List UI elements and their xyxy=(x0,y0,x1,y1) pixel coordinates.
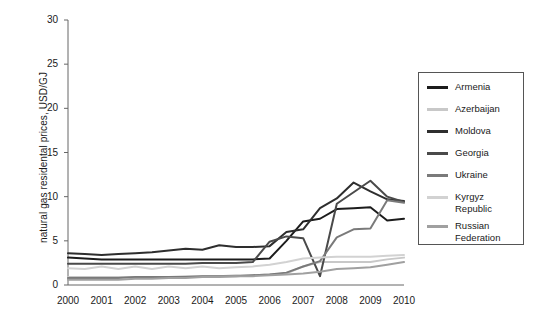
legend-item[interactable]: Russian Federation xyxy=(427,220,500,243)
chart-container: natural gas residental prices, USD/GJ 05… xyxy=(0,0,540,328)
legend-item[interactable]: Azerbaijan xyxy=(427,103,500,115)
legend-color-swatch xyxy=(427,108,448,111)
legend-item[interactable]: Kyrgyz Republic xyxy=(427,191,492,214)
legend-label: Armenia xyxy=(455,81,490,93)
legend-label: Ukraine xyxy=(455,169,488,181)
legend-color-swatch xyxy=(427,130,448,133)
axes xyxy=(64,20,404,285)
legend-item[interactable]: Moldova xyxy=(427,125,491,137)
x-tick-label: 2010 xyxy=(384,295,424,306)
legend-label: Kyrgyz Republic xyxy=(455,191,492,214)
legend-label: Georgia xyxy=(455,147,489,159)
legend-color-swatch xyxy=(427,225,448,228)
y-tick-label: 5 xyxy=(36,235,58,246)
y-tick-label: 30 xyxy=(36,14,58,25)
legend-item[interactable]: Georgia xyxy=(427,147,489,159)
legend-color-swatch xyxy=(427,152,448,155)
legend-item[interactable]: Ukraine xyxy=(427,169,488,181)
legend: ArmeniaAzerbaijanMoldovaGeorgiaUkraineKy… xyxy=(418,72,524,245)
legend-color-swatch xyxy=(427,174,448,177)
legend-color-swatch xyxy=(427,196,448,199)
y-axis-label: natural gas residental prices, USD/GJ xyxy=(38,53,49,263)
series-line xyxy=(68,207,404,259)
legend-color-swatch xyxy=(427,86,448,89)
y-tick-label: 20 xyxy=(36,102,58,113)
series-line xyxy=(68,200,404,278)
y-tick-label: 10 xyxy=(36,191,58,202)
data-series-group xyxy=(68,181,404,280)
y-tick-label: 0 xyxy=(36,279,58,290)
legend-label: Russian Federation xyxy=(455,220,500,243)
legend-item[interactable]: Armenia xyxy=(427,81,490,93)
y-tick-label: 25 xyxy=(36,58,58,69)
y-tick-label: 15 xyxy=(36,147,58,158)
legend-label: Moldova xyxy=(455,125,491,137)
legend-label: Azerbaijan xyxy=(455,103,500,115)
